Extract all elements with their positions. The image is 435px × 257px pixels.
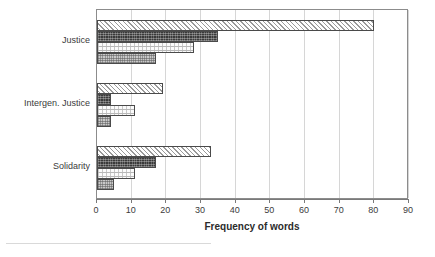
x-axis-tick-label: 30 <box>187 205 213 216</box>
x-axis-tick-label: 80 <box>360 205 386 216</box>
y-axis-category-label: Intergen. Justice <box>2 98 90 109</box>
x-axis-tick-label: 10 <box>118 205 144 216</box>
x-axis-tick <box>304 199 305 203</box>
x-axis-tick <box>165 199 166 203</box>
bar <box>97 105 135 116</box>
bar <box>97 42 194 53</box>
bar <box>97 53 156 64</box>
x-axis-tick <box>408 199 409 203</box>
x-axis-tick <box>339 199 340 203</box>
gridline <box>408 10 409 198</box>
x-axis-tick-label: 60 <box>291 205 317 216</box>
bar <box>97 116 111 127</box>
bar <box>97 179 114 190</box>
bar <box>97 157 156 168</box>
bar-group <box>97 20 407 64</box>
bar <box>97 31 218 42</box>
x-axis-tick-label: 20 <box>152 205 178 216</box>
x-axis-tick <box>235 199 236 203</box>
bar <box>97 168 135 179</box>
plot-area <box>96 9 408 199</box>
x-axis-tick-label: 50 <box>256 205 282 216</box>
bar <box>97 146 211 157</box>
bar-group <box>97 83 407 127</box>
x-axis-tick-label: 70 <box>326 205 352 216</box>
x-axis-tick <box>269 199 270 203</box>
bar <box>97 94 111 105</box>
x-axis-tick-label: 0 <box>83 205 109 216</box>
x-axis-tick <box>373 199 374 203</box>
footer-divider <box>6 243 211 244</box>
x-axis-title: Frequency of words <box>96 221 408 232</box>
x-axis-tick <box>96 199 97 203</box>
x-axis-tick-label: 40 <box>222 205 248 216</box>
bar <box>97 20 374 31</box>
y-axis-category-label: Justice <box>2 35 90 46</box>
y-axis-category-label: Solidarity <box>2 161 90 172</box>
x-axis-tick <box>200 199 201 203</box>
x-axis-line <box>96 199 408 200</box>
bar <box>97 83 163 94</box>
x-axis-tick <box>131 199 132 203</box>
bar-group <box>97 146 407 190</box>
x-axis-tick-label: 90 <box>395 205 421 216</box>
bar-chart: Frequency of words 0102030405060708090Ju… <box>0 0 435 257</box>
